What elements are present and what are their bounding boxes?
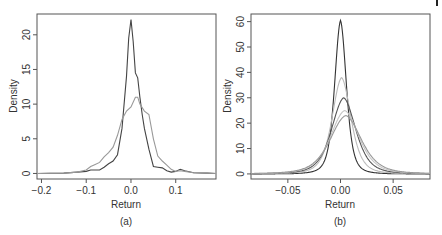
y-tick-label: 10 bbox=[235, 143, 246, 155]
x-tick-label: −0.2 bbox=[32, 185, 52, 196]
x-tick-label: −0.05 bbox=[275, 185, 301, 196]
density-line bbox=[251, 78, 430, 174]
series-a bbox=[37, 20, 216, 174]
x-tick-label: 0.00 bbox=[331, 185, 351, 196]
plot-box-a bbox=[37, 14, 216, 179]
x-tick-label: −0.1 bbox=[76, 185, 96, 196]
y-tick-label: 20 bbox=[21, 29, 32, 41]
y-tick-label: 0 bbox=[21, 170, 32, 176]
panel-a: 05101520 −0.2−0.10.00.1 Return Density (… bbox=[8, 14, 216, 227]
y-tick-label: 10 bbox=[21, 98, 32, 110]
x-axis-title-a: Return bbox=[111, 199, 141, 210]
series-b bbox=[251, 20, 430, 174]
panel-b: 0102030405060 −0.050.000.05 Return Densi… bbox=[222, 14, 430, 227]
y-tick-label: 60 bbox=[235, 16, 246, 28]
x-tick-label: 0.05 bbox=[383, 185, 403, 196]
plot-box-b bbox=[251, 14, 430, 179]
x-axis-a: −0.2−0.10.00.1 bbox=[32, 179, 184, 196]
y-tick-label: 40 bbox=[235, 66, 246, 78]
density-line bbox=[251, 98, 430, 174]
y-axis-title-b: Density bbox=[222, 79, 233, 112]
y-tick-label: 15 bbox=[21, 63, 32, 75]
y-axis-b: 0102030405060 bbox=[235, 16, 251, 177]
x-tick-label: 0.1 bbox=[169, 185, 183, 196]
y-tick-label: 50 bbox=[235, 41, 246, 53]
density-line bbox=[251, 20, 430, 174]
density-line bbox=[37, 20, 216, 174]
y-tick-label: 0 bbox=[235, 171, 246, 177]
x-axis-title-b: Return bbox=[325, 199, 355, 210]
y-axis-title-a: Density bbox=[8, 79, 19, 112]
page-corner-mark bbox=[436, 0, 438, 6]
figure: 05101520 −0.2−0.10.00.1 Return Density (… bbox=[0, 0, 442, 235]
caption-b: (b) bbox=[334, 216, 346, 227]
y-tick-label: 5 bbox=[21, 136, 32, 142]
density-line bbox=[37, 97, 216, 173]
y-tick-label: 20 bbox=[235, 117, 246, 129]
x-axis-b: −0.050.000.05 bbox=[275, 179, 403, 196]
density-line bbox=[251, 116, 430, 174]
y-tick-label: 30 bbox=[235, 92, 246, 104]
caption-a: (a) bbox=[120, 216, 132, 227]
x-tick-label: 0.0 bbox=[124, 185, 138, 196]
y-axis-a: 05101520 bbox=[21, 29, 37, 176]
